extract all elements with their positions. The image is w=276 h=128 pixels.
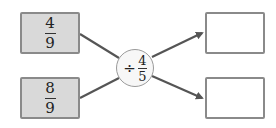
output-value-1 [207, 14, 263, 52]
input-fraction-2: 8 9 [22, 79, 78, 117]
output-box-2[interactable] [205, 77, 265, 119]
denominator: 9 [45, 36, 55, 51]
numerator: 4 [138, 54, 146, 67]
input-fraction-1: 4 9 [22, 14, 78, 52]
line-input1-to-operator [80, 34, 119, 58]
numerator: 4 [45, 16, 55, 31]
numerator: 8 [45, 81, 55, 96]
input-box-1: 4 9 [20, 12, 80, 54]
output-box-1[interactable] [205, 12, 265, 54]
operator-circle: ÷ 4 5 [116, 49, 154, 87]
arrow-operator-to-output1 [152, 33, 202, 57]
denominator: 9 [45, 101, 55, 116]
denominator: 5 [138, 70, 146, 83]
divide-icon: ÷ [123, 59, 136, 77]
line-input2-to-operator [80, 78, 119, 98]
operator-fraction: 4 5 [138, 54, 147, 83]
output-value-2 [207, 79, 263, 117]
arrow-operator-to-output2 [152, 76, 202, 98]
input-box-2: 8 9 [20, 77, 80, 119]
